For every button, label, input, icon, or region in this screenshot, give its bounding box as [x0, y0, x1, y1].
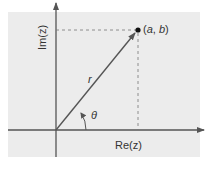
complex-plane-diagram: (a, b) r θ Re(z) Im(z)	[0, 0, 208, 171]
point-label: (a, b)	[143, 23, 169, 35]
y-axis-label: Im(z)	[36, 25, 48, 50]
point-marker	[135, 27, 140, 32]
angle-label: θ	[91, 109, 97, 121]
x-axis-label: Re(z)	[115, 139, 142, 151]
